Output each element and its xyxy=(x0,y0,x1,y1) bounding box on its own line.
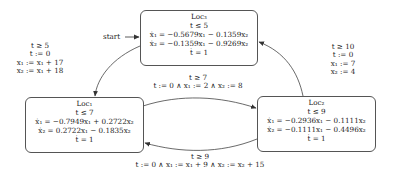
edge-loc1-to-loc2 xyxy=(143,98,256,108)
reset: t := 0 ∧ x₁ := x₁ + 9 ∧ x₂ := x₂ + 15 xyxy=(110,161,290,169)
reset: x₂ := 4 xyxy=(323,68,363,76)
transition-label-loc1-loc2: t ≥ 7 t := 0 ∧ x₁ := 2 ∧ x₂ := 8 xyxy=(128,74,268,91)
start-label: start xyxy=(103,32,120,41)
flow-equation: ṫ = 1 xyxy=(26,136,143,145)
transition-label-loc3-loc1: t ≥ 5 t := 0 x₁ := x₁ + 17 x₂ := x₁ + 18 xyxy=(8,42,72,76)
location-loc1[interactable]: Loc₁ t ≤ 7 ẋ₁ = −0.7949x₁ + 0.2722x₂ ẋ₂ … xyxy=(25,97,144,153)
transition-label-loc2-loc1: t ≥ 9 t := 0 ∧ x₁ := x₁ + 9 ∧ x₂ := x₂ +… xyxy=(110,153,290,170)
reset: x₂ := x₁ + 18 xyxy=(8,67,72,75)
location-loc2[interactable]: Loc₂ t ≤ 9 ẋ₁ = −0.2936x₁ − 0.1111x₂ ẋ₂ … xyxy=(257,96,376,152)
transition-label-loc2-loc3: t ≥ 10 t := 0 x₁ := 7 x₂ := 4 xyxy=(323,43,363,77)
edge-loc2-to-loc1 xyxy=(145,139,257,150)
reset: t := 0 ∧ x₁ := 2 ∧ x₂ := 8 xyxy=(128,82,268,90)
flow-equation: ṫ = 1 xyxy=(258,135,375,144)
flow-equation: ṫ = 1 xyxy=(141,49,257,58)
location-loc3[interactable]: Loc₃ t ≤ 5 ẋ₁ = −0.5679x₁ − 0.1359x₂ ẋ₂ … xyxy=(140,10,258,66)
hybrid-automaton-diagram: start Loc₃ t ≤ 5 ẋ₁ = −0.5679x₁ − 0.1359… xyxy=(0,0,394,181)
